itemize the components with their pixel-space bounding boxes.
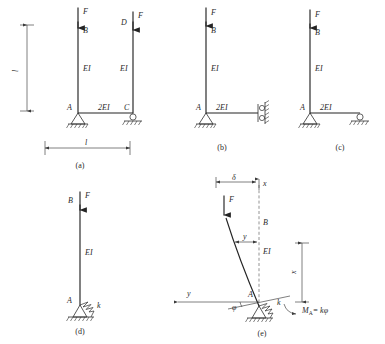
panel-d-node-a-label: A [66, 296, 72, 305]
panel-e-phi-label: φ [232, 303, 237, 312]
panel-a-node-d-label: D [120, 18, 127, 27]
panel-e-axis-y-label: y [186, 289, 191, 298]
panel-a-node-b-label: B [83, 26, 88, 35]
panel-e-node-b-label: B [263, 218, 268, 227]
panel-a-caption: (a) [76, 161, 85, 170]
panel-e: x y F δ y B EI A x [178, 173, 329, 338]
panel-e-x-dimension: x [289, 243, 309, 302]
panel-e-delta-dimension: δ [216, 173, 256, 188]
panel-e-ei-label: EI [262, 247, 271, 256]
panel-d-node-b-label: B [68, 196, 73, 205]
panel-b-caption: (b) [217, 143, 227, 152]
figure-root: F F B D EI EI A 2EI C [0, 0, 385, 344]
engineering-figure-svg: F F B D EI EI A 2EI C [0, 0, 385, 344]
panel-e-moment-expression: MA= kφ [301, 306, 329, 316]
panel-e-spring-label: k [277, 298, 281, 307]
panel-a-pin-support [67, 113, 89, 128]
panel-e-y-label: y [242, 232, 247, 241]
panel-b-node-b-label: B [211, 26, 216, 35]
panel-d: F B EI A k (d) [66, 191, 101, 336]
panel-e-moment-equals: = kφ [313, 306, 329, 315]
panel-e-axis-x-label: x [262, 179, 267, 188]
panel-b-wall-roller-support [258, 101, 269, 125]
panel-d-load-label: F [84, 191, 90, 200]
panel-b-ei-label: EI [210, 64, 219, 73]
panel-b: F B EI A 2EI (b) [195, 8, 270, 152]
panel-b-2ei-label: 2EI [216, 103, 228, 112]
panel-e-x-coordinate-label: x [289, 270, 298, 275]
panel-b-pin-support [195, 113, 217, 128]
panel-e-y-dimension: y [235, 232, 257, 242]
panel-a-ei-left-label: EI [82, 64, 91, 73]
panel-c-node-a-label: A [299, 103, 305, 112]
panel-a-roller-support [123, 114, 143, 125]
panel-a-load-right-label: F [137, 11, 143, 20]
panel-a-node-c-label: C [124, 103, 130, 112]
panel-c-2ei-label: 2EI [320, 103, 332, 112]
panel-c-load-label: F [314, 10, 320, 19]
panel-a-span-label: l [85, 138, 88, 147]
panel-a-load-left-label: F [82, 7, 88, 16]
panel-e-moment-arc [284, 304, 296, 314]
panel-e-node-a-label: A [247, 290, 253, 299]
panel-d-spring-label: k [97, 301, 101, 310]
panel-a-span-dimension: l [45, 138, 130, 155]
panel-c-roller-support [350, 114, 370, 125]
panel-e-load-label: F [228, 195, 234, 204]
panel-c: F B EI A 2EI (c) [299, 10, 370, 152]
panel-c-caption: (c) [336, 143, 345, 152]
panel-c-pin-support [299, 113, 321, 128]
panel-d-ei-label: EI [84, 248, 93, 257]
panel-e-caption: (e) [258, 329, 267, 338]
panel-a-height-label: l [11, 69, 20, 72]
panel-b-load-label: F [210, 8, 216, 17]
panel-a-2ei-label: 2EI [98, 103, 110, 112]
panel-a-ei-right-label: EI [119, 64, 128, 73]
panel-a-height-dimension: l [11, 25, 34, 111]
panel-a-node-a-label: A [66, 103, 72, 112]
panel-b-node-a-label: A [195, 103, 201, 112]
svg-text:MA= kφ: MA= kφ [301, 306, 329, 316]
panel-c-node-b-label: B [315, 28, 320, 37]
panel-d-caption: (d) [75, 327, 85, 336]
panel-a: F F B D EI EI A 2EI C [11, 7, 143, 170]
panel-c-ei-label: EI [314, 64, 323, 73]
panel-e-delta-label: δ [232, 173, 236, 182]
